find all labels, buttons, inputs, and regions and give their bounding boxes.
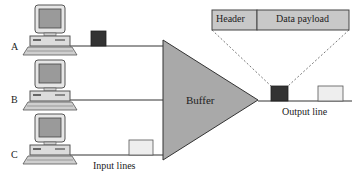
header-label: Header: [216, 13, 245, 24]
computer-a-icon: [23, 5, 77, 55]
output-packet-dark: [271, 86, 288, 101]
computer-c-label: C: [11, 149, 18, 160]
computer-a-label: A: [11, 41, 18, 52]
payload-label: Data payload: [276, 13, 329, 24]
zoom-line-right: [288, 30, 349, 86]
output-packet-light: [318, 86, 343, 101]
input-lines-label: Input lines: [93, 160, 136, 171]
packet-a-dark: [91, 31, 106, 46]
output-line-label: Output line: [282, 106, 327, 117]
buffer-label: Buffer: [186, 94, 215, 106]
diagram-canvas: [0, 0, 362, 181]
computer-c-icon: [23, 114, 77, 164]
computer-b-icon: [23, 60, 77, 110]
computer-b-label: B: [11, 94, 18, 105]
packet-c-light: [129, 140, 153, 155]
